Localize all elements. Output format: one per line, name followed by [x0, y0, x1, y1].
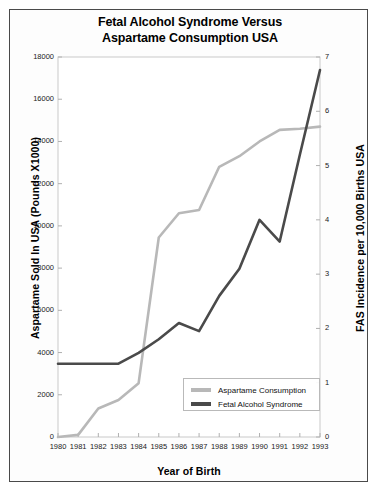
y-axis-right-tick-label: 0	[325, 432, 345, 441]
legend-swatch-fas	[191, 402, 211, 406]
y-axis-right-tick-label: 3	[325, 269, 345, 278]
y-axis-left-title: Aspartame Sold In USA (Pounds X1000)	[29, 123, 41, 353]
legend-swatch-aspartame	[191, 388, 211, 392]
y-axis-right-tick-label: 4	[325, 215, 345, 224]
y-axis-right-tick-label: 1	[325, 378, 345, 387]
x-axis-tick-label: 1993	[306, 442, 334, 451]
chart-legend: Aspartame Consumption Fetal Alcohol Synd…	[183, 378, 320, 411]
y-axis-right-tick-label: 7	[325, 52, 345, 61]
y-axis-right-title: FAS Incidence per 10,000 Births USA	[354, 123, 366, 353]
legend-item-fetal-alcohol-syndrome: Fetal Alcohol Syndrome	[191, 397, 303, 411]
y-axis-left-tick-label: 0	[8, 432, 54, 441]
x-axis-title: Year of Birth	[58, 465, 320, 477]
legend-label-aspartame: Aspartame Consumption	[218, 386, 306, 395]
y-axis-right-tick-label: 6	[325, 106, 345, 115]
y-axis-left-tick-label: 16000	[8, 94, 54, 103]
legend-item-aspartame-consumption: Aspartame Consumption	[191, 383, 306, 397]
chart-figure: Fetal Alcohol Syndrome Versus Aspartame …	[0, 0, 377, 491]
y-axis-left-tick-label: 18000	[8, 52, 54, 61]
y-axis-right-tick-label: 5	[325, 161, 345, 170]
y-axis-right-tick-label: 2	[325, 323, 345, 332]
legend-label-fas: Fetal Alcohol Syndrome	[218, 400, 303, 409]
plot-area	[0, 0, 377, 491]
y-axis-left-tick-label: 2000	[8, 390, 54, 399]
